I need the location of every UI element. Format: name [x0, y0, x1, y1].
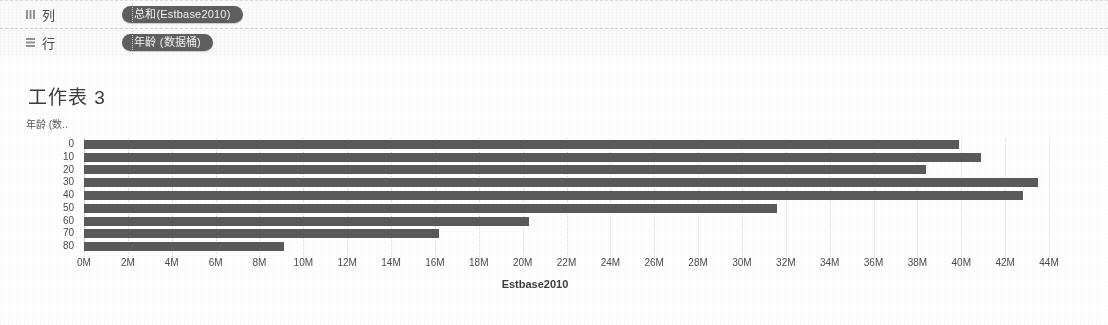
- y-tick-20: 20: [63, 164, 74, 177]
- x-tick-16M: 16M: [425, 257, 444, 268]
- bar-row[interactable]: [84, 151, 1049, 164]
- bar-row[interactable]: [84, 227, 1049, 240]
- bar-50[interactable]: [84, 204, 777, 213]
- x-tick-4M: 4M: [165, 257, 179, 268]
- shelf-divider: [132, 31, 134, 54]
- x-tick-20M: 20M: [513, 257, 532, 268]
- gridline: [1049, 138, 1051, 259]
- columns-shelf-label: 列: [0, 5, 112, 24]
- x-tick-22M: 22M: [557, 257, 576, 268]
- bar-80[interactable]: [84, 242, 284, 251]
- bar-row[interactable]: [84, 138, 1049, 151]
- x-tick-40M: 40M: [952, 257, 971, 268]
- bar-40[interactable]: [84, 191, 1023, 200]
- y-tick-30: 30: [63, 176, 74, 189]
- x-tick-26M: 26M: [644, 257, 663, 268]
- row-axis-title: 年龄 (数..: [26, 116, 68, 131]
- x-tick-18M: 18M: [469, 257, 488, 268]
- x-axis-title: Estbase2010: [0, 278, 1108, 290]
- columns-shelf[interactable]: 列 总和(Estbase2010): [0, 0, 1108, 29]
- x-tick-42M: 42M: [995, 257, 1014, 268]
- bar-20[interactable]: [84, 165, 926, 174]
- bar-row[interactable]: [84, 202, 1049, 215]
- page-title: 工作表 3: [28, 82, 106, 109]
- y-tick-0: 0: [68, 138, 74, 151]
- rows-shelf[interactable]: 行 年龄 (数据桶): [0, 29, 1108, 57]
- x-axis-title-text: Estbase2010: [502, 278, 569, 290]
- x-tick-2M: 2M: [121, 257, 135, 268]
- x-tick-36M: 36M: [864, 257, 883, 268]
- bar-row[interactable]: [84, 176, 1049, 189]
- bar-30[interactable]: [84, 178, 1038, 187]
- y-tick-10: 10: [63, 151, 74, 164]
- plot-area: [84, 138, 1049, 253]
- x-tick-28M: 28M: [688, 257, 707, 268]
- pill-age-bin[interactable]: 年龄 (数据桶): [122, 34, 213, 51]
- bar-row[interactable]: [84, 240, 1049, 253]
- columns-shelf-text: 列: [42, 5, 56, 24]
- x-tick-30M: 30M: [732, 257, 751, 268]
- columns-grid-icon: [26, 10, 35, 19]
- bar-70[interactable]: [84, 229, 439, 238]
- bar-60[interactable]: [84, 217, 529, 226]
- y-tick-60: 60: [63, 215, 74, 228]
- rows-grid-icon: [26, 38, 35, 47]
- x-tick-10M: 10M: [294, 257, 313, 268]
- rows-shelf-text: 行: [42, 33, 56, 52]
- y-tick-70: 70: [63, 227, 74, 240]
- bar-series: [84, 138, 1049, 253]
- y-axis-tick-labels: 01020304050607080: [0, 138, 80, 253]
- bar-10[interactable]: [84, 153, 981, 162]
- shelf-panel: 列 总和(Estbase2010) 行 年龄 (数据桶): [0, 0, 1108, 57]
- x-tick-8M: 8M: [253, 257, 267, 268]
- bar-row[interactable]: [84, 189, 1049, 202]
- x-tick-24M: 24M: [601, 257, 620, 268]
- x-tick-38M: 38M: [908, 257, 927, 268]
- y-tick-80: 80: [63, 240, 74, 253]
- x-tick-44M: 44M: [1039, 257, 1058, 268]
- y-tick-40: 40: [63, 189, 74, 202]
- bar-row[interactable]: [84, 215, 1049, 228]
- bar-0[interactable]: [84, 140, 959, 149]
- bar-row[interactable]: [84, 164, 1049, 177]
- x-tick-34M: 34M: [820, 257, 839, 268]
- pill-sum-estbase2010[interactable]: 总和(Estbase2010): [122, 6, 243, 23]
- x-tick-6M: 6M: [209, 257, 223, 268]
- x-axis-tick-labels: 0M2M4M6M8M10M12M14M16M18M20M22M24M26M28M…: [0, 257, 1108, 271]
- worksheet-view: 工作表 3 年龄 (数.. 01020304050607080 0M2M4M6M…: [0, 56, 1108, 325]
- y-tick-50: 50: [63, 202, 74, 215]
- x-tick-32M: 32M: [776, 257, 795, 268]
- x-tick-12M: 12M: [337, 257, 356, 268]
- x-tick-0M: 0M: [77, 257, 91, 268]
- x-tick-14M: 14M: [381, 257, 400, 268]
- shelf-divider: [132, 3, 134, 26]
- rows-shelf-label: 行: [0, 33, 112, 52]
